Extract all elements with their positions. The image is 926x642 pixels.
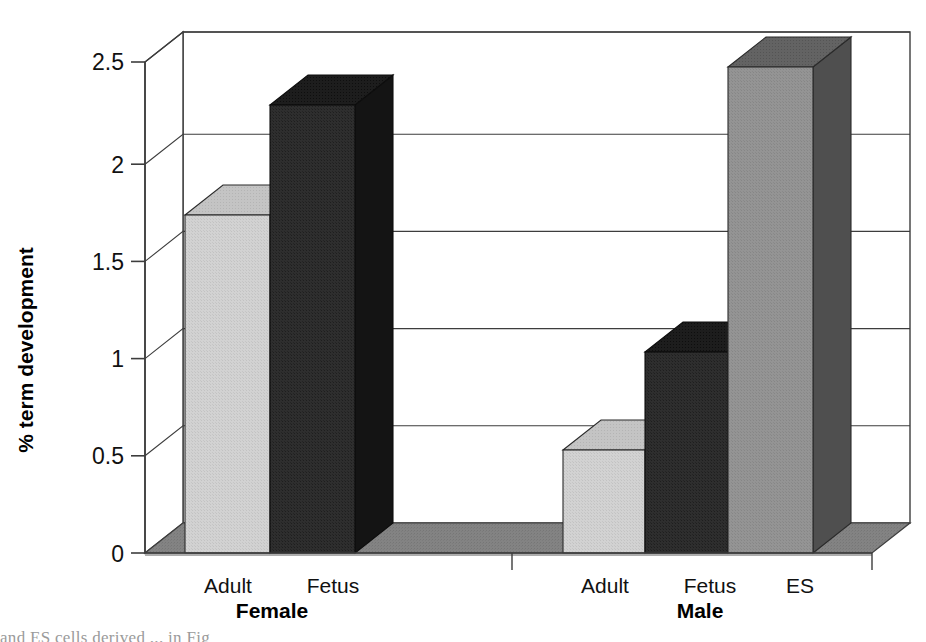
bar-female-fetus-front xyxy=(270,105,355,553)
x-group-labels: Female Male xyxy=(236,599,724,622)
bar-male-es-side xyxy=(813,37,851,553)
bar-male-es-front xyxy=(728,67,813,553)
y-axis xyxy=(131,62,145,553)
x-label-female-fetus: Fetus xyxy=(307,574,360,597)
x-group-label-female: Female xyxy=(236,599,308,622)
x-label-male-adult: Adult xyxy=(581,574,629,597)
y-tick-labels: 2.5 2 1.5 1 0.5 0 xyxy=(92,49,124,567)
x-label-female-adult: Adult xyxy=(204,574,252,597)
y-tick-label-0-5: 0.5 xyxy=(92,443,124,469)
bar-female-fetus-side xyxy=(355,75,393,553)
bar-female-fetus[interactable] xyxy=(270,75,393,553)
left-wall xyxy=(145,32,183,553)
x-category-labels: Adult Fetus Adult Fetus ES xyxy=(204,574,814,597)
y-tick-label-1-5: 1.5 xyxy=(92,249,124,275)
bar-male-fetus-front xyxy=(645,352,728,553)
y-axis-title: % term development xyxy=(14,247,37,452)
bar-female-adult-front xyxy=(185,215,270,553)
figure-3d-bar-chart: 2.5 2 1.5 1 0.5 0 % term development xyxy=(0,0,926,642)
bar-male-adult-front xyxy=(563,450,645,553)
bar-male-es[interactable] xyxy=(728,37,851,553)
chart-canvas: 2.5 2 1.5 1 0.5 0 % term development xyxy=(0,0,926,642)
x-label-male-es: ES xyxy=(786,574,814,597)
y-tick-label-0: 0 xyxy=(111,541,124,567)
cropped-caption-text: and ES cells derived ... in Fig xyxy=(0,628,926,642)
y-tick-label-1: 1 xyxy=(111,346,124,372)
x-group-label-male: Male xyxy=(677,599,724,622)
y-tick-label-2-5: 2.5 xyxy=(92,49,124,75)
y-tick-label-2: 2 xyxy=(111,152,124,178)
x-label-male-fetus: Fetus xyxy=(684,574,737,597)
